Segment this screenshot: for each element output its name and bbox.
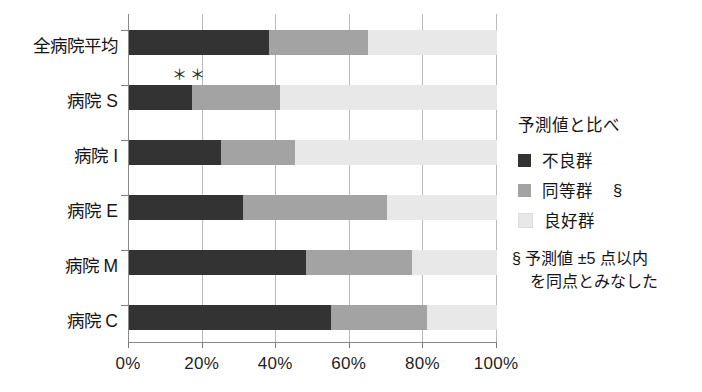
legend-items: 不良群同等群§良好群	[506, 145, 702, 235]
y-axis-category-label: 病院 C	[0, 307, 118, 332]
bar-segment	[129, 85, 192, 110]
legend-title: 予測値と比べ	[518, 112, 702, 136]
legend-footnote-line-1: § 予測値 ±5 点以内	[512, 250, 648, 267]
x-tick-label-40: 40%	[235, 354, 315, 374]
bar-row	[129, 140, 497, 165]
legend-footnote: § 予測値 ±5 点以内 を同点とみなした	[512, 247, 702, 293]
gridline-80	[422, 14, 423, 342]
bar-segment	[221, 140, 295, 165]
legend-item: 同等群§	[506, 175, 702, 205]
legend-footnote-marker: §	[613, 181, 622, 200]
x-tick-20	[202, 342, 203, 348]
legend-swatch	[518, 184, 531, 197]
x-tick-0	[128, 342, 129, 348]
y-tick-2	[121, 140, 128, 141]
bar-segment	[129, 305, 331, 330]
x-tick-label-80: 80%	[382, 354, 462, 374]
gridline-60	[349, 14, 350, 342]
chart-figure: 0%20%40%60%80%100% ＊＊ 全病院平均病院 S病院 I病院 E病…	[0, 0, 702, 392]
x-tick-label-0: 0%	[88, 354, 168, 374]
bar-segment	[306, 250, 413, 275]
gridline-40	[275, 14, 276, 342]
significance-marker: ＊＊	[172, 63, 208, 84]
bar-segment	[192, 85, 280, 110]
bar-segment	[387, 195, 497, 220]
y-axis-line	[128, 14, 129, 342]
y-axis-category-label: 病院 M	[0, 252, 118, 277]
bar-row	[129, 305, 497, 330]
legend-item-label: 良好群	[544, 208, 595, 232]
x-tick-80	[422, 342, 423, 348]
bar-segment	[129, 140, 221, 165]
y-axis-category-label: 全病院平均	[0, 32, 118, 57]
legend-footnote-line-2: を同点とみなした	[530, 270, 702, 293]
x-tick-label-20: 20%	[162, 354, 242, 374]
y-axis-category-label: 病院 S	[0, 87, 118, 112]
y-tick-4	[121, 250, 128, 251]
y-tick-3	[121, 195, 128, 196]
y-axis-category-label: 病院 I	[0, 142, 118, 167]
x-tick-60	[349, 342, 350, 348]
bar-row	[129, 250, 497, 275]
bar-segment	[331, 305, 427, 330]
legend: 予測値と比べ 不良群同等群§良好群 § 予測値 ±5 点以内 を同点とみなした	[506, 112, 702, 293]
bar-row	[129, 30, 497, 55]
gridline-100	[496, 14, 497, 342]
bar-row	[129, 85, 497, 110]
bar-segment	[129, 250, 306, 275]
bar-segment	[368, 30, 497, 55]
x-tick-label-100: 100%	[456, 354, 536, 374]
x-axis-line	[128, 342, 497, 343]
legend-swatch	[518, 154, 531, 167]
x-tick-label-60: 60%	[309, 354, 389, 374]
y-tick-1	[121, 85, 128, 86]
y-tick-5	[121, 305, 128, 306]
bar-row	[129, 195, 497, 220]
bar-segment	[295, 140, 497, 165]
bar-segment	[243, 195, 387, 220]
legend-item: 不良群	[506, 145, 702, 175]
bar-segment	[280, 85, 497, 110]
bar-segment	[412, 250, 497, 275]
legend-item-label: 同等群	[542, 178, 593, 202]
x-tick-100	[496, 342, 497, 348]
bar-segment	[269, 30, 368, 55]
legend-item: 良好群	[506, 205, 702, 235]
legend-item-label: 不良群	[542, 148, 593, 172]
legend-swatch	[518, 213, 533, 228]
plot-area: 0%20%40%60%80%100% ＊＊	[128, 14, 496, 342]
bar-segment	[129, 195, 243, 220]
bar-segment	[129, 30, 269, 55]
y-tick-0	[121, 30, 128, 31]
bar-segment	[427, 305, 497, 330]
x-tick-40	[275, 342, 276, 348]
y-axis-category-label: 病院 E	[0, 197, 118, 222]
